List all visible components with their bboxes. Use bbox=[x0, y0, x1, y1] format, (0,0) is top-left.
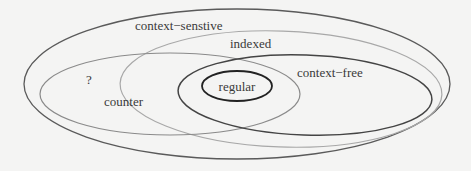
counter-ellipse bbox=[40, 53, 300, 135]
label-context-free: context−free bbox=[297, 65, 363, 80]
language-hierarchy-diagram: context−senstive indexed counter ? conte… bbox=[0, 0, 471, 171]
label-regular: regular bbox=[219, 79, 256, 94]
set-labels: context−senstive indexed counter ? conte… bbox=[86, 18, 363, 109]
label-indexed: indexed bbox=[230, 36, 272, 51]
label-counter: counter bbox=[104, 94, 144, 109]
label-unknown-class: ? bbox=[86, 72, 92, 87]
context-free-ellipse bbox=[177, 51, 434, 140]
label-context-sensitive: context−senstive bbox=[135, 18, 223, 33]
